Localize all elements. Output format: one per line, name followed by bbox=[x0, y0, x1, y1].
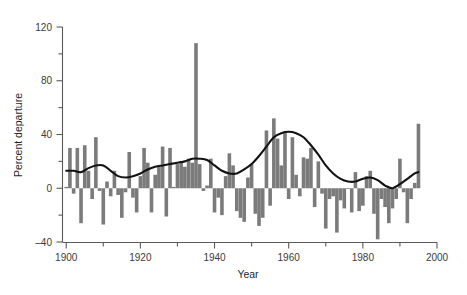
bar bbox=[261, 188, 265, 218]
bar bbox=[224, 176, 228, 188]
bar bbox=[350, 188, 354, 212]
bar bbox=[64, 187, 68, 188]
bar bbox=[94, 137, 98, 188]
bar bbox=[205, 186, 209, 189]
bar bbox=[239, 188, 243, 218]
x-tick-label: 2000 bbox=[426, 252, 449, 263]
bar bbox=[213, 188, 217, 212]
x-axis-title: Year bbox=[237, 268, 259, 280]
bar bbox=[417, 124, 421, 189]
bar bbox=[202, 188, 206, 191]
bar bbox=[343, 188, 347, 208]
x-tick-label: 1920 bbox=[129, 252, 152, 263]
bar bbox=[276, 139, 280, 189]
bar bbox=[105, 182, 109, 189]
bar bbox=[302, 157, 306, 188]
bar bbox=[376, 188, 380, 239]
bar bbox=[135, 188, 139, 212]
bar bbox=[406, 188, 410, 223]
bar bbox=[265, 130, 269, 188]
bar bbox=[298, 188, 302, 196]
bar bbox=[220, 188, 224, 215]
x-tick-label: 1980 bbox=[352, 252, 375, 263]
bar bbox=[372, 188, 376, 214]
bar bbox=[335, 188, 339, 232]
bar bbox=[242, 188, 246, 222]
bar bbox=[68, 148, 72, 188]
bar bbox=[116, 188, 120, 195]
bar bbox=[98, 188, 102, 191]
bar bbox=[402, 188, 406, 192]
bar bbox=[380, 188, 384, 199]
bar bbox=[157, 167, 161, 189]
bar bbox=[409, 188, 413, 199]
percent-departure-chart: –4004080120 190019201940196019802000 Yea… bbox=[0, 0, 467, 295]
bar bbox=[190, 163, 194, 189]
bar bbox=[194, 43, 198, 188]
bar bbox=[165, 188, 169, 216]
bar bbox=[387, 188, 391, 223]
bar bbox=[131, 188, 135, 197]
bar bbox=[320, 188, 324, 193]
bar bbox=[79, 188, 83, 223]
bar bbox=[339, 188, 343, 200]
bar bbox=[176, 164, 180, 188]
y-tick-label: 40 bbox=[41, 129, 53, 140]
bar bbox=[124, 188, 128, 192]
bar bbox=[198, 164, 202, 188]
bar bbox=[272, 118, 276, 188]
bar bbox=[324, 188, 328, 228]
y-tick-label: 80 bbox=[41, 75, 53, 86]
y-tick-label: –40 bbox=[35, 237, 52, 248]
bar bbox=[283, 132, 287, 188]
bar bbox=[368, 171, 372, 188]
bar bbox=[346, 188, 350, 189]
bar bbox=[394, 188, 398, 199]
bar bbox=[72, 188, 76, 193]
bar bbox=[101, 188, 105, 224]
bar bbox=[257, 188, 261, 226]
bar bbox=[309, 148, 313, 188]
bar bbox=[357, 188, 361, 211]
bar bbox=[150, 188, 154, 212]
bar bbox=[153, 175, 157, 188]
bar bbox=[391, 188, 395, 208]
bar bbox=[250, 164, 254, 188]
bar bbox=[76, 148, 80, 188]
bar bbox=[294, 175, 298, 188]
bar bbox=[87, 171, 91, 188]
bar bbox=[313, 188, 317, 207]
x-tick-label: 1900 bbox=[55, 252, 78, 263]
bar bbox=[146, 163, 150, 189]
bar bbox=[235, 188, 239, 211]
bar bbox=[83, 145, 87, 188]
bar bbox=[216, 188, 220, 197]
bar bbox=[231, 165, 235, 188]
bar bbox=[142, 148, 146, 188]
bar bbox=[120, 188, 124, 218]
bar bbox=[328, 188, 332, 199]
bar bbox=[305, 159, 309, 189]
bar bbox=[317, 161, 321, 188]
y-tick-label: 0 bbox=[46, 183, 52, 194]
bar bbox=[279, 165, 283, 188]
bar bbox=[291, 137, 295, 188]
bar bbox=[254, 188, 258, 214]
bar bbox=[179, 161, 183, 188]
bar bbox=[361, 188, 365, 205]
chart-background bbox=[0, 0, 467, 295]
chart-figure: –4004080120 190019201940196019802000 Yea… bbox=[0, 0, 467, 295]
x-tick-label: 1940 bbox=[203, 252, 226, 263]
bar bbox=[246, 178, 250, 189]
bar bbox=[161, 147, 165, 189]
bar bbox=[183, 167, 187, 189]
bar bbox=[228, 153, 232, 188]
x-tick-label: 1960 bbox=[278, 252, 301, 263]
bar bbox=[187, 159, 191, 189]
bar bbox=[90, 188, 94, 199]
y-tick-label: 120 bbox=[35, 22, 52, 33]
bar bbox=[287, 188, 291, 199]
y-axis-title: Percent departure bbox=[12, 93, 24, 177]
bar bbox=[109, 188, 113, 196]
bar bbox=[127, 152, 131, 188]
